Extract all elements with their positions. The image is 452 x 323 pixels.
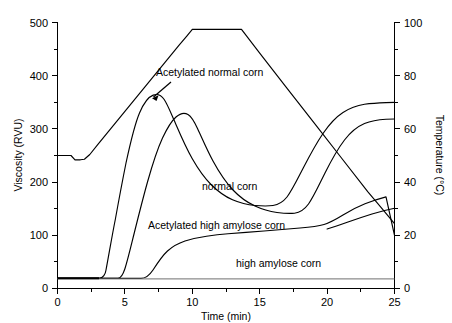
y-tick-label-300: 300	[30, 123, 48, 135]
y2-tick-label-80: 80	[404, 70, 416, 82]
y2-tick-label-20: 20	[404, 229, 416, 241]
y-tick-label-200: 200	[30, 176, 48, 188]
y-axis-title: Viscosity (RVU)	[12, 118, 24, 191]
y2-tick-label-0: 0	[404, 282, 410, 294]
annotation-label-acetylated-normal-corn: Acetylated normal corn	[156, 66, 264, 78]
x-tick-label-10: 10	[186, 296, 198, 308]
x-tick-label-5: 5	[122, 296, 128, 308]
chart-figure: 0 100 200 300 400 500 0 20 40 60 80 100	[0, 0, 452, 323]
x-axis-title: Time (min)	[201, 310, 251, 322]
annotation-label-acetylated-high-amylose-corn: Acetylated high amylose corn	[148, 219, 285, 231]
y2-axis-title: Temperature (°C)	[434, 115, 446, 196]
annotation-label-normal-corn: normal corn	[202, 180, 258, 192]
x-tick-label-0: 0	[54, 296, 60, 308]
x-tick-label-25: 25	[388, 296, 400, 308]
y2-tick-label-100: 100	[404, 17, 422, 29]
y2-tick-label-60: 60	[404, 123, 416, 135]
viscosity-temperature-chart: 0 100 200 300 400 500 0 20 40 60 80 100	[0, 0, 452, 323]
x-tick-label-20: 20	[321, 296, 333, 308]
y-tick-label-0: 0	[42, 282, 48, 294]
chart-background	[0, 0, 452, 323]
x-tick-label-15: 15	[254, 296, 266, 308]
y-tick-label-500: 500	[30, 17, 48, 29]
y-tick-label-400: 400	[30, 70, 48, 82]
y2-tick-label-40: 40	[404, 176, 416, 188]
annotation-label-high-amylose-corn: high amylose corn	[236, 257, 321, 269]
y-tick-label-100: 100	[30, 229, 48, 241]
